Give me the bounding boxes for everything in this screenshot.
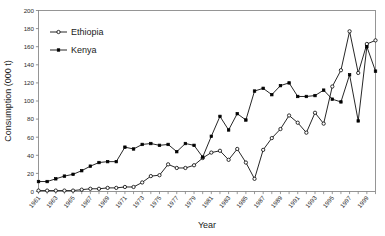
x-tick-label: 1995 xyxy=(321,194,336,209)
data-point-marker xyxy=(270,136,273,139)
data-point-marker xyxy=(98,161,101,164)
chart-canvas: 0204060801001201401601802001961196319651… xyxy=(0,0,385,236)
data-point-marker xyxy=(115,186,118,189)
data-point-marker xyxy=(374,39,377,42)
x-tick-label: 1985 xyxy=(235,194,250,209)
x-tick-label: 1961 xyxy=(27,194,42,209)
x-tick-labels: 1961196319651967196919711973197519771979… xyxy=(27,194,370,209)
data-point-marker xyxy=(89,165,92,168)
data-point-marker xyxy=(314,94,317,97)
data-point-marker xyxy=(72,173,75,176)
data-point-marker xyxy=(55,178,58,181)
data-point-marker xyxy=(210,135,213,138)
consumption-line-chart: 0204060801001201401601802001961196319651… xyxy=(0,0,385,236)
x-tick-label: 1991 xyxy=(286,194,301,209)
data-point-marker xyxy=(348,74,351,77)
data-point-marker xyxy=(279,84,282,87)
data-point-marker xyxy=(287,114,290,117)
data-point-marker xyxy=(236,147,239,150)
y-tick-label: 140 xyxy=(24,61,35,68)
x-tick-label: 1965 xyxy=(62,194,77,209)
data-point-marker xyxy=(322,89,325,92)
data-point-marker xyxy=(366,45,369,48)
y-tick-label: 120 xyxy=(24,79,35,86)
data-point-marker xyxy=(57,30,60,33)
data-point-marker xyxy=(37,189,40,192)
x-tick-label: 1973 xyxy=(131,194,146,209)
data-point-marker xyxy=(219,115,222,118)
data-point-marker xyxy=(37,180,40,183)
y-axis: 020406080100120140160180200 xyxy=(24,7,39,195)
data-point-marker xyxy=(54,189,57,192)
data-point-marker xyxy=(176,150,179,153)
data-point-marker xyxy=(175,166,178,169)
data-point-marker xyxy=(262,148,265,151)
data-point-marker xyxy=(97,187,100,190)
data-point-marker xyxy=(253,90,256,93)
x-tick-label: 1981 xyxy=(200,194,215,209)
data-point-marker xyxy=(279,127,282,130)
x-tick-label: 1969 xyxy=(96,194,111,209)
data-point-marker xyxy=(340,101,343,104)
data-point-marker xyxy=(348,30,351,33)
data-point-marker xyxy=(57,49,60,52)
data-point-marker xyxy=(227,129,230,132)
x-tick-label: 1979 xyxy=(183,194,198,209)
x-tick-label: 1963 xyxy=(45,194,60,209)
data-point-marker xyxy=(244,161,247,164)
data-point-marker xyxy=(339,69,342,72)
plot-frame xyxy=(39,11,376,192)
x-axis-title: Year xyxy=(198,220,216,230)
data-point-marker xyxy=(374,70,377,73)
x-tick-label: 1997 xyxy=(338,194,353,209)
data-point-marker xyxy=(305,131,308,134)
data-point-marker xyxy=(357,120,360,123)
y-tick-label: 180 xyxy=(24,25,35,32)
series-line xyxy=(39,47,376,182)
x-tick-label: 1975 xyxy=(148,194,163,209)
data-point-marker xyxy=(236,112,239,115)
legend-item-kenya: Kenya xyxy=(50,45,97,55)
data-point-marker xyxy=(124,146,127,149)
data-point-marker xyxy=(305,95,308,98)
data-point-marker xyxy=(115,160,118,163)
legend-label: Ethiopia xyxy=(71,27,104,37)
legend: EthiopiaKenya xyxy=(50,27,104,55)
x-tick-label: 1983 xyxy=(217,194,232,209)
data-point-marker xyxy=(166,163,169,166)
y-tick-label: 60 xyxy=(27,134,34,141)
x-tick-label: 1967 xyxy=(79,194,94,209)
data-point-marker xyxy=(45,189,48,192)
data-point-marker xyxy=(149,174,152,177)
data-point-marker xyxy=(106,160,109,163)
data-point-marker xyxy=(184,142,187,145)
y-tick-label: 20 xyxy=(27,170,34,177)
data-point-marker xyxy=(132,148,135,151)
data-point-marker xyxy=(63,175,66,178)
data-point-marker xyxy=(158,144,161,147)
y-tick-label: 80 xyxy=(27,115,34,122)
data-point-marker xyxy=(245,119,248,122)
y-tick-label: 40 xyxy=(27,152,34,159)
x-tick-label: 1971 xyxy=(114,194,129,209)
data-point-marker xyxy=(227,158,230,161)
data-point-marker xyxy=(106,186,109,189)
data-point-marker xyxy=(262,87,265,90)
legend-item-ethiopia: Ethiopia xyxy=(50,27,104,37)
data-point-marker xyxy=(271,93,274,96)
x-tick-label: 1993 xyxy=(304,194,319,209)
data-point-marker xyxy=(357,71,360,74)
data-point-marker xyxy=(80,169,83,172)
y-tick-label: 100 xyxy=(24,97,35,104)
data-point-marker xyxy=(296,95,299,98)
data-point-marker xyxy=(46,180,49,183)
data-point-marker xyxy=(150,142,153,145)
x-tick-label: 1999 xyxy=(356,194,371,209)
data-point-marker xyxy=(313,111,316,114)
data-point-marker xyxy=(158,174,161,177)
y-axis-title: Consumption (000 t) xyxy=(3,60,13,142)
data-point-marker xyxy=(71,189,74,192)
x-tick-label: 1987 xyxy=(252,194,267,209)
data-point-marker xyxy=(331,85,334,88)
data-point-marker xyxy=(184,166,187,169)
